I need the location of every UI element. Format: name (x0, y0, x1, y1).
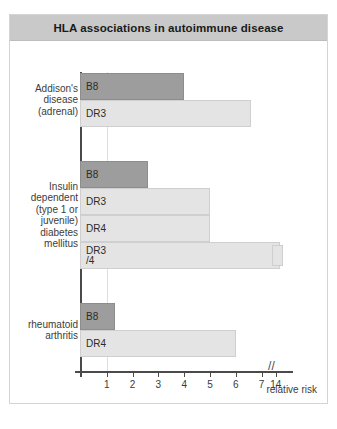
category-label-column: Addison's disease (adrenal)Insulin depen… (10, 41, 86, 404)
bar-label: DR4 (81, 224, 106, 234)
bar-DR3-group-1: DR3 (80, 100, 251, 127)
figure-title: HLA associations in autoimmune disease (53, 22, 283, 34)
x-axis-tick-7 (262, 371, 263, 377)
x-axis-tick-label-2: 2 (124, 379, 142, 390)
bar-label: DR4 (81, 339, 106, 349)
x-axis-tick-3 (158, 371, 159, 377)
bar-B8-group-1: B8 (80, 73, 184, 100)
bar-segment-after-axis-break (272, 245, 283, 266)
bar-label: B8 (81, 312, 98, 322)
x-axis-tick-label-6: 6 (227, 379, 245, 390)
bar-DR34-group-2: DR3 /4 (80, 242, 280, 269)
category-label-group-2: Insulin dependent (type 1 or juvenile) d… (31, 181, 78, 250)
x-axis-tick-4 (184, 371, 185, 377)
x-axis-tick-label-1: 1 (98, 379, 116, 390)
bar-label: DR3 (81, 197, 106, 207)
x-axis-tick-label-4: 4 (175, 379, 193, 390)
x-axis-tick-14 (276, 371, 277, 377)
x-axis-caption: relative risk (266, 384, 317, 395)
bar-label: B8 (81, 170, 98, 180)
bar-label: B8 (81, 82, 98, 92)
bar-B8-group-2: B8 (80, 161, 148, 188)
axis-break-mark: // (268, 360, 275, 372)
x-axis-tick-label-5: 5 (201, 379, 219, 390)
x-axis-tick-1 (107, 371, 108, 377)
bar-DR4-group-3: DR4 (80, 330, 236, 357)
category-label-group-1: Addison's disease (adrenal) (35, 83, 78, 118)
x-axis-tick-2 (133, 371, 134, 377)
figure-title-bar: HLA associations in autoimmune disease (10, 15, 327, 41)
bar-label: DR3 /4 (81, 246, 106, 266)
chart-plot-area: Addison's disease (adrenal)Insulin depen… (10, 41, 327, 404)
bar-DR3-group-2: DR3 (80, 188, 210, 215)
figure-panel: HLA associations in autoimmune disease A… (9, 14, 328, 404)
x-axis-tick-label-3: 3 (149, 379, 167, 390)
x-axis-tick-5 (210, 371, 211, 377)
bar-label: DR3 (81, 109, 106, 119)
category-label-group-3: rheumatoid arthritis (28, 319, 78, 342)
bar-DR4-group-2: DR4 (80, 215, 210, 242)
bar-B8-group-3: B8 (80, 303, 115, 330)
x-axis-tick-6 (236, 371, 237, 377)
